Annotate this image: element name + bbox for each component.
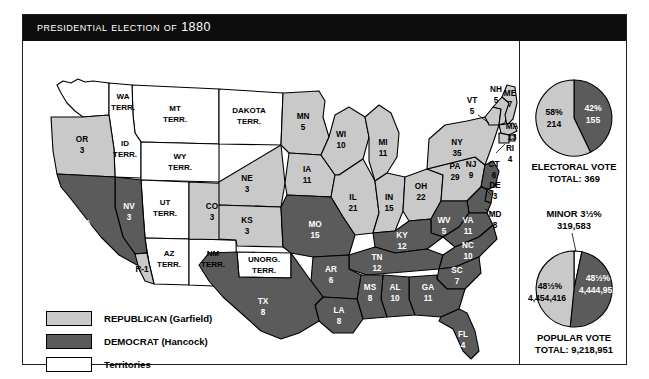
- label-wv-votes: 5: [442, 227, 447, 236]
- label-az-territory-line2: TERR.: [157, 260, 181, 269]
- legend-swatch-republican: [46, 311, 92, 326]
- state-shape-wa-territory: [57, 79, 109, 117]
- label-mt-territory-line1: MT: [169, 104, 181, 113]
- label-ut-territory-line2: TERR.: [153, 209, 177, 218]
- label-pa-code: PA: [450, 162, 461, 171]
- label-oh-votes: 22: [416, 193, 426, 202]
- map-frame: Presidential Election of 1880: [22, 14, 627, 365]
- label-ia-votes: 11: [303, 176, 312, 185]
- label-mo-code: MO: [308, 220, 322, 229]
- label-ar-votes: 6: [329, 276, 334, 285]
- state-shape-wy-territory: [141, 142, 219, 182]
- label-la-code: LA: [334, 306, 345, 315]
- label-id-territory-line1: ID: [121, 139, 129, 148]
- state-shape-la: [315, 297, 363, 333]
- label-mi-code: MI: [378, 138, 387, 147]
- label-nc-votes: 10: [463, 252, 473, 261]
- label-ga-code: GA: [422, 283, 434, 292]
- label-ma-code: MA: [506, 122, 518, 131]
- label-sc-code: SC: [451, 266, 462, 275]
- label-or-code: OR: [76, 135, 88, 144]
- label-az-territory-line1: AZ: [164, 249, 175, 258]
- label-tn-votes: 12: [372, 264, 382, 273]
- label-ma-votes: 13: [507, 133, 517, 142]
- popular-label-republican-percent: 48⅓%: [538, 281, 563, 291]
- label-tx-code: TX: [258, 297, 269, 306]
- popular-minor-callout-percent: MINOR 3⅓%: [546, 208, 602, 219]
- popular-minor-callout-value: 319,583: [557, 220, 591, 231]
- label-ca-republican-sliver: R-1: [135, 265, 149, 274]
- label-ky-code: KY: [396, 231, 408, 240]
- leader-line-ct: [496, 144, 505, 153]
- label-oh-code: OH: [415, 182, 427, 191]
- electoral-label-republican-value: 214: [547, 119, 562, 129]
- popular-label-democrat-value: 4,444,952: [579, 285, 617, 295]
- label-fl-code: FL: [458, 330, 468, 339]
- vote-charts-svg: 58% 214 42% 155 ELECTORAL VOTE TOTAL: 36…: [520, 41, 628, 364]
- label-nm-territory-line1: NM: [207, 249, 220, 258]
- label-de-code: DE: [489, 181, 501, 190]
- electoral-chart-total: TOTAL: 369: [548, 173, 600, 184]
- label-wa-territory-line1: WA: [117, 92, 130, 101]
- label-ut-territory-line1: UT: [160, 198, 171, 207]
- label-dakota-territory-line1: DAKOTA: [232, 106, 266, 115]
- label-nh-votes: 5: [494, 96, 499, 105]
- label-il-code: IL: [349, 193, 356, 202]
- label-me-code: ME: [504, 89, 517, 98]
- label-co-code: CO: [206, 202, 219, 211]
- label-co-votes: 3: [210, 213, 215, 222]
- label-ne-votes: 3: [245, 185, 250, 194]
- label-id-territory-line2: TERR.: [113, 150, 137, 159]
- label-fl-votes: 4: [461, 341, 466, 350]
- label-mi-votes: 11: [379, 149, 388, 158]
- electoral-chart-title: ELECTORAL VOTE: [531, 161, 616, 172]
- label-al-code: AL: [390, 283, 401, 292]
- label-sc-votes: 7: [455, 277, 460, 286]
- label-ri-code: RI: [506, 144, 514, 153]
- legend-swatch-democrat: [46, 334, 92, 349]
- label-dakota-territory-line2: TERR.: [237, 117, 261, 126]
- label-nc-code: NC: [462, 241, 474, 250]
- label-ar-code: AR: [325, 265, 337, 274]
- label-in-code: IN: [385, 193, 393, 202]
- state-shape-in: [373, 173, 405, 233]
- label-wy-territory-line2: TERR.: [168, 163, 192, 172]
- legend-swatch-territories: [46, 357, 92, 372]
- label-vt-votes: 5: [470, 107, 475, 116]
- label-nv-votes: 3: [127, 213, 132, 222]
- label-md-code: MD: [489, 210, 502, 219]
- legend-item-territories: Territories: [46, 355, 212, 374]
- popular-chart-title: POPULAR VOTE: [537, 332, 611, 343]
- label-al-votes: 10: [390, 294, 400, 303]
- label-ca-code: CA: [79, 219, 91, 228]
- label-unorg-territory-line2: TERR.: [252, 266, 276, 275]
- label-ct-votes: 6: [492, 171, 497, 180]
- label-ny-votes: 35: [452, 149, 462, 158]
- electoral-vote-chart: 58% 214 42% 155 ELECTORAL VOTE TOTAL: 36…: [531, 80, 616, 184]
- label-ky-votes: 12: [397, 242, 407, 251]
- election-map-page: Presidential Election of 1880: [0, 0, 649, 379]
- label-va-code: VA: [463, 216, 474, 225]
- label-ri-votes: 4: [508, 155, 513, 164]
- label-il-votes: 21: [348, 204, 358, 213]
- label-ga-votes: 11: [424, 294, 433, 303]
- label-md-votes: 8: [493, 221, 498, 230]
- label-or-votes: 3: [80, 146, 85, 155]
- label-tx-votes: 8: [261, 308, 266, 317]
- page-title: Presidential Election of 1880: [37, 20, 211, 34]
- label-nm-territory-line2: TERR.: [201, 260, 225, 269]
- label-va-votes: 11: [464, 227, 473, 236]
- label-ks-code: KS: [241, 216, 253, 225]
- label-mn-votes: 5: [301, 123, 306, 132]
- label-nj-votes: 9: [469, 171, 474, 180]
- label-pa-votes: 29: [450, 173, 460, 182]
- legend-label-democrat: DEMOCRAT (Hancock): [104, 336, 208, 347]
- label-nh-code: NH: [490, 85, 502, 94]
- label-vt-code: VT: [467, 96, 477, 105]
- us-map-panel: WA TERR. MT TERR. ID TERR. WY TERR. UT T…: [23, 41, 518, 364]
- title-bar: Presidential Election of 1880: [23, 15, 626, 41]
- label-la-votes: 8: [337, 317, 342, 326]
- vote-charts-panel: 58% 214 42% 155 ELECTORAL VOTE TOTAL: 36…: [519, 41, 628, 364]
- legend-label-territories: Territories: [104, 359, 151, 370]
- leader-line-minor-slice: [572, 233, 576, 252]
